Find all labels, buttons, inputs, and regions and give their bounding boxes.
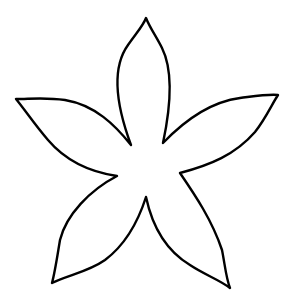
flower-outline-icon bbox=[0, 0, 284, 302]
flower-drawing bbox=[0, 0, 284, 302]
flower-outline bbox=[16, 18, 278, 288]
